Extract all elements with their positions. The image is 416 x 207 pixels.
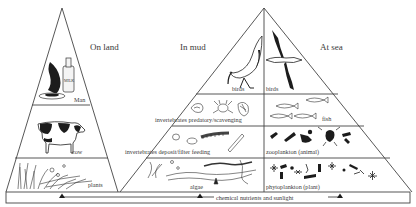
land-pyramid: MILK Man cow plants On land [6, 8, 119, 192]
seaweed-algae-icon [148, 160, 256, 184]
crab-shell-icon [191, 100, 249, 116]
milk-bottle-and-food-icon: MILK [39, 58, 74, 99]
seabird-icon [266, 30, 302, 90]
level-label-plants: plants [88, 181, 103, 188]
level-label-mud-birds: birds [232, 85, 245, 92]
wading-bird-icon [228, 36, 262, 88]
nutrients-base-bar: chemical nutrients and sunlight [6, 192, 410, 203]
level-label-phytoplankton: phytoplankton (plant) [266, 183, 320, 191]
fish-icon [270, 97, 328, 119]
mud-sea-pyramid: In mud At sea birds invertebrates predat… [120, 8, 412, 192]
level-label-sea-birds: birds [266, 85, 279, 92]
level-label-cow: cow [72, 148, 83, 155]
level-label-deposit-invertebrates: invertebrates deposit/filter feeding [125, 148, 210, 155]
food-pyramid-diagram: chemical nutrients and sunlight MILK Man… [0, 0, 416, 207]
heading-on-land: On land [90, 42, 119, 52]
grass-plants-icon [18, 163, 92, 189]
zooplankton-icon [270, 127, 351, 146]
svg-text:MILK: MILK [64, 78, 74, 83]
heading-in-mud: In mud [180, 42, 206, 52]
phytoplankton-icon [270, 162, 377, 180]
level-label-zooplankton: zooplankton (animal) [266, 148, 319, 156]
base-label: chemical nutrients and sunlight [216, 194, 294, 201]
level-label-algae: algae [190, 183, 203, 190]
level-label-predatory-invertebrates: invertebrates predatory/scavenging [155, 116, 242, 123]
heading-at-sea: At sea [320, 42, 343, 52]
level-label-fish: fish [322, 115, 332, 122]
level-label-man: Man [74, 96, 85, 103]
